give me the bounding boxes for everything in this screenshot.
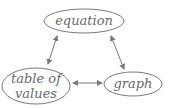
node-graph: graph xyxy=(104,72,162,96)
node-graph-label: graph xyxy=(114,76,153,91)
edge-equation-graph xyxy=(111,36,124,69)
node-equation-label: equation xyxy=(55,13,113,28)
node-equation: equation xyxy=(44,9,124,33)
node-table-label-line1: table of xyxy=(11,71,63,86)
node-table-of-values: table of values xyxy=(2,68,70,104)
edge-equation-table xyxy=(48,36,57,64)
node-table-label-line2: values xyxy=(15,86,57,101)
representation-diagram: equation table of values graph xyxy=(0,0,169,108)
